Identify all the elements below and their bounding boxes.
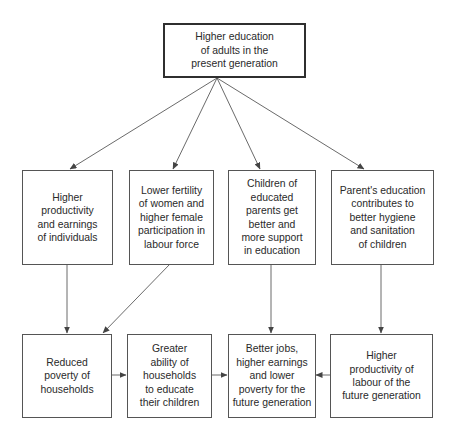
node-label: Higher education of adults in the presen… bbox=[191, 30, 278, 70]
node-parents-education-hygiene: Parent's education contributes to better… bbox=[331, 170, 434, 265]
node-label: Higher productivity and earnings of indi… bbox=[37, 191, 97, 245]
node-label: Greater ability of households to educate… bbox=[140, 342, 200, 409]
node-reduced-poverty-households: Reduced poverty of households bbox=[22, 334, 112, 418]
node-higher-education-adults: Higher education of adults in the presen… bbox=[163, 23, 306, 78]
arrow-fertility-to-reduced-poverty bbox=[103, 264, 170, 333]
node-higher-productivity-individuals: Higher productivity and earnings of indi… bbox=[22, 170, 113, 265]
node-label: Higher productivity of labour of the fut… bbox=[342, 349, 421, 403]
node-children-educated-parents: Children of educated parents get better … bbox=[228, 170, 316, 265]
node-label: Children of educated parents get better … bbox=[241, 177, 302, 257]
node-higher-productivity-future: Higher productivity of labour of the fut… bbox=[330, 334, 433, 418]
node-lower-fertility-women: Lower fertility of women and higher fema… bbox=[129, 170, 214, 265]
node-label: Better jobs, higher earnings and lower p… bbox=[233, 342, 312, 409]
node-label: Lower fertility of women and higher fema… bbox=[138, 184, 205, 251]
node-better-jobs-future: Better jobs, higher earnings and lower p… bbox=[228, 334, 316, 418]
node-greater-ability-households: Greater ability of households to educate… bbox=[127, 334, 212, 418]
arrow-top-to-hygiene bbox=[217, 78, 364, 169]
node-label: Reduced poverty of households bbox=[40, 356, 93, 396]
node-label: Parent's education contributes to better… bbox=[340, 184, 426, 251]
